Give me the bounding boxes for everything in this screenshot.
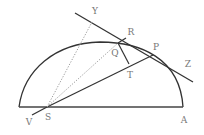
geometry-diagram: Y R Q P T Z S V A [0,0,204,135]
semi-ellipse-arc [19,42,183,107]
label-q: Q [111,49,118,58]
label-r: R [128,28,135,37]
segment-s-p [47,55,153,107]
segment-q-t [118,43,129,64]
diagram-svg [0,0,204,135]
tangent-line [75,13,193,82]
label-v: V [26,118,33,127]
dotted-s-y [47,22,92,107]
label-y: Y [92,7,98,16]
label-a: A [181,116,188,125]
label-z: Z [185,60,191,69]
label-t: T [127,71,133,80]
label-p: P [153,43,159,52]
label-s: S [45,113,51,122]
